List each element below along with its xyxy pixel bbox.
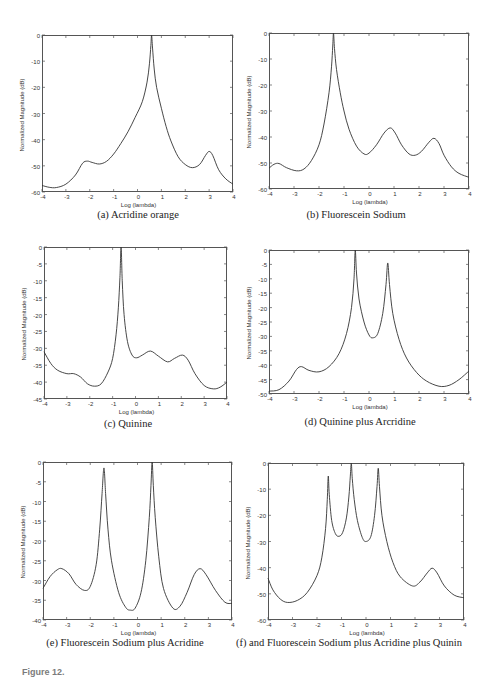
y-tick-label: 0 [264,31,269,37]
x-tick-label: -1 [112,194,117,200]
y-tick-label: -60 [257,618,268,624]
x-tick-label: -1 [112,622,117,628]
y-tick-label: -35 [32,598,43,604]
y-tick-label: -20 [257,513,268,519]
y-tick-label: -10 [258,57,269,63]
x-tick-label: 0 [135,401,138,407]
x-tick-label: 3 [443,191,446,197]
x-tick-label: 3 [208,194,211,200]
x-tick-label: 2 [418,396,421,402]
y-tick-label: -40 [33,380,44,386]
x-tick-label: -1 [342,396,347,402]
chart-a-series-line [42,35,233,188]
y-tick-label: -60 [31,190,42,196]
y-tick-label: -15 [258,291,269,297]
y-tick-label: -40 [257,566,268,572]
x-tick-label: 4 [468,191,471,197]
chart-d-plot: -4-3-2-1012340-5-10-15-20-25-30-35-40-45… [269,250,469,394]
chart-a-svg [42,35,233,192]
x-axis-label: Log (lambda) [349,630,384,636]
y-tick-label: -50 [31,164,42,170]
x-tick-label: 4 [232,194,235,200]
y-tick-label: -10 [33,279,44,285]
chart-e-caption: (e) Fluorescein Sodium plus Acridine [46,637,203,648]
axis-ticks [269,250,469,394]
x-tick-label: -3 [291,622,296,628]
y-tick-label: -30 [33,346,44,352]
y-tick-label: -45 [33,397,44,403]
chart-a-plot: -4-3-2-1012340-10-20-30-40-50-60Log (lam… [42,35,233,192]
y-tick-label: -35 [33,363,44,369]
x-tick-label: 3 [443,396,446,402]
y-tick-label: -10 [257,487,268,493]
x-tick-label: -3 [65,401,70,407]
y-tick-label: 0 [263,461,268,467]
y-axis-label: Normalized Magnitude (dB) [19,78,25,151]
chart-c-caption: (c) Quinine [104,418,152,429]
chart-d-series-line [269,250,469,391]
figure-caption-label: Figure 12. [22,667,65,677]
y-tick-label: -20 [32,539,43,545]
x-tick-label: 0 [137,622,140,628]
chart-f-caption: (f) and Fluorescein Sodium plus Acridine… [236,637,462,648]
chart-b-series-line [269,33,469,177]
y-tick-label: -20 [33,313,44,319]
chart-c-series-line [44,247,227,389]
y-tick-label: -10 [258,277,269,283]
y-tick-label: -50 [258,161,269,167]
x-tick-label: 4 [468,396,471,402]
x-tick-label: -2 [88,194,93,200]
chart-d-svg [269,250,469,394]
x-axis-label: Log (lambda) [121,202,156,208]
x-tick-label: -2 [315,622,320,628]
y-tick-label: -40 [32,618,43,624]
x-axis-label: Log (lambda) [352,199,387,205]
y-tick-label: -5 [37,262,44,268]
y-tick-label: -40 [258,363,269,369]
y-tick-label: -30 [258,109,269,115]
y-tick-label: -45 [258,378,269,384]
y-tick-label: -5 [262,262,269,268]
chart-e-svg [43,462,232,620]
y-tick-label: -15 [32,519,43,525]
x-tick-label: 1 [160,622,163,628]
y-axis-label: Normalized Magnitude (dB) [246,286,252,359]
y-axis-label: Normalized Magnitude (dB) [21,287,27,360]
x-tick-label: 1 [158,401,161,407]
x-tick-label: -2 [89,622,94,628]
x-tick-label: 3 [208,622,211,628]
y-tick-label: -25 [33,329,44,335]
y-tick-label: 0 [39,245,44,251]
chart-c-plot: -4-3-2-1012340-5-10-15-20-25-30-35-40-45… [44,247,227,399]
y-tick-label: 0 [38,460,43,466]
y-tick-label: -5 [36,480,43,486]
chart-c-svg [44,247,227,399]
axis-ticks [43,462,232,620]
x-tick-label: 4 [226,401,229,407]
y-tick-label: -20 [258,306,269,312]
y-tick-label: -50 [257,592,268,598]
y-tick-label: -35 [258,349,269,355]
x-tick-label: 3 [439,622,442,628]
x-axis-label: Log (lambda) [119,409,154,415]
chart-f-series-line [268,463,464,603]
y-tick-label: -30 [257,540,268,546]
x-tick-label: 0 [137,194,140,200]
y-tick-label: -40 [258,135,269,141]
y-tick-label: -10 [31,59,42,65]
x-tick-label: 0 [368,396,371,402]
x-tick-label: 1 [390,622,393,628]
y-tick-label: -50 [258,392,269,398]
x-tick-label: -3 [65,622,70,628]
chart-d-caption: (d) Quinine plus Arcridine [304,416,415,427]
x-tick-label: -1 [111,401,116,407]
y-tick-label: -15 [33,296,44,302]
chart-b-plot: -4-3-2-1012340-10-20-30-40-50-60Log (lam… [269,33,469,189]
x-tick-label: 2 [418,191,421,197]
y-tick-label: -25 [32,559,43,565]
chart-b-caption: (b) Fluorescein Sodium [306,209,405,220]
x-tick-label: 4 [231,622,234,628]
x-tick-label: -2 [317,191,322,197]
y-axis-label: Normalized Magnitude (dB) [245,506,251,579]
y-tick-label: -40 [31,138,42,144]
